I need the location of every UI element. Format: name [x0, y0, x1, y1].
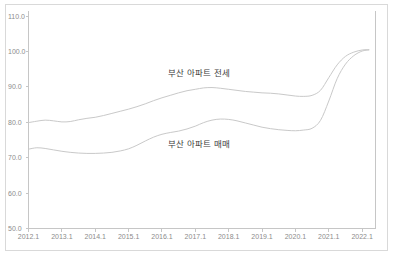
y-axis-tick-label: 110.0 [8, 13, 25, 20]
y-axis-tick-label: 100.0 [8, 48, 26, 55]
chart-container: 110.0100.090.080.070.060.050.0 2012.1201… [0, 0, 393, 256]
series-annotation-maemae: 부산 아파트 매매 [168, 137, 231, 149]
x-axis-tick-label: 2015.1 [118, 233, 140, 240]
x-axis-tick-label: 2014.1 [85, 233, 107, 240]
x-axis-tick-label: 2016.1 [151, 233, 173, 240]
y-axis-tick-label: 80.0 [8, 119, 22, 126]
series-line-jeonse [29, 50, 369, 123]
x-axis-tick-label: 2019.1 [251, 233, 273, 240]
xtick-labels-group: 2012.12013.12014.12015.12016.12017.12018… [18, 233, 373, 240]
y-axis-tick-label: 90.0 [8, 83, 22, 90]
x-axis-tick-label: 2017.1 [185, 233, 207, 240]
y-axis-tick-label: 50.0 [8, 225, 22, 232]
x-axis-tick-label: 2020.1 [285, 233, 307, 240]
x-axis-tick-label: 2012.1 [18, 233, 40, 240]
y-axis-tick-label: 60.0 [8, 190, 22, 197]
x-axis-tick-label: 2022.1 [351, 233, 373, 240]
ytick-labels-group: 110.0100.090.080.070.060.050.0 [8, 13, 26, 233]
x-axis-tick-label: 2021.1 [318, 233, 340, 240]
axes-group [26, 11, 376, 232]
line-chart-plot: 110.0100.090.080.070.060.050.0 2012.1201… [0, 0, 393, 256]
series-annotation-jeonse: 부산 아파트 전세 [168, 66, 231, 78]
x-axis-tick-label: 2013.1 [51, 233, 73, 240]
y-axis-tick-label: 70.0 [8, 154, 22, 161]
x-axis-tick-label: 2018.1 [218, 233, 240, 240]
